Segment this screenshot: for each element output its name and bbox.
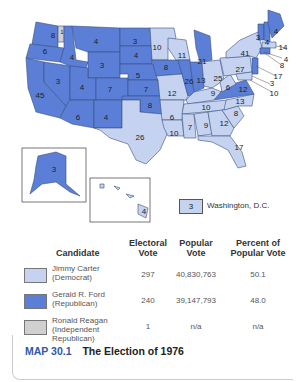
svg-text:25: 25 (214, 74, 223, 83)
svg-text:10: 10 (153, 43, 162, 52)
svg-text:7: 7 (188, 123, 193, 132)
svg-text:10: 10 (170, 129, 179, 138)
svg-text:12: 12 (220, 119, 229, 128)
svg-text:3: 3 (256, 33, 261, 42)
svg-text:9: 9 (211, 89, 216, 98)
percent-vote: 48.0 (232, 296, 284, 305)
svg-text:45: 45 (36, 91, 45, 100)
svg-text:11: 11 (178, 51, 187, 60)
svg-text:3: 3 (100, 61, 105, 70)
legend-row-carter: Jimmy Carter (Democrat) 297 40,830,763 5… (0, 264, 297, 288)
electoral-vote: 240 (130, 296, 166, 305)
header-candidate: Candidate (56, 248, 100, 258)
svg-text:8: 8 (148, 101, 153, 110)
svg-text:6: 6 (43, 47, 48, 56)
svg-text:8: 8 (280, 61, 285, 70)
svg-text:27: 27 (236, 65, 245, 74)
republican-swatch (24, 294, 47, 309)
svg-text:3: 3 (52, 165, 57, 174)
svg-text:7: 7 (144, 85, 149, 94)
us-election-map: 81 645 34 43 47 64 34 57 826 108 126 101… (0, 0, 297, 225)
svg-text:4: 4 (94, 37, 99, 46)
svg-text:10: 10 (270, 89, 279, 98)
svg-text:17: 17 (235, 143, 244, 152)
svg-text:8: 8 (51, 31, 56, 40)
dc-label: Washington, D.C. (207, 201, 269, 210)
svg-text:12: 12 (239, 85, 248, 94)
map-number: MAP 30.1 (25, 345, 72, 357)
state-ct (260, 48, 270, 54)
svg-text:4: 4 (265, 38, 270, 47)
popular-vote: 40,830,763 (166, 270, 226, 279)
electoral-vote: 297 (130, 270, 166, 279)
svg-text:13: 13 (236, 97, 245, 106)
svg-text:41: 41 (241, 49, 250, 58)
electoral-vote: 1 (130, 322, 166, 331)
svg-text:17: 17 (274, 72, 283, 81)
svg-text:9: 9 (204, 121, 209, 130)
svg-text:4: 4 (142, 207, 147, 216)
svg-text:26: 26 (136, 133, 145, 142)
svg-text:8: 8 (234, 109, 239, 118)
svg-text:10: 10 (202, 103, 211, 112)
svg-text:4: 4 (80, 83, 85, 92)
popular-vote: 39,147,793 (166, 296, 226, 305)
state-nj (252, 58, 258, 74)
svg-text:14: 14 (279, 43, 288, 52)
candidate-name: Gerald R. Ford (Republican) (52, 290, 105, 308)
legend-row-ford: Gerald R. Ford (Republican) 240 39,147,7… (0, 290, 297, 314)
svg-text:4: 4 (284, 55, 289, 64)
svg-text:7: 7 (108, 85, 113, 94)
svg-text:6: 6 (226, 83, 231, 92)
svg-text:3: 3 (270, 79, 275, 88)
map-caption: MAP 30.1 The Election of 1976 (25, 345, 184, 357)
independent-swatch (24, 320, 47, 335)
svg-text:3: 3 (133, 37, 138, 46)
democrat-swatch (24, 268, 47, 283)
svg-text:4: 4 (70, 53, 75, 62)
header-percent-popular-vote: Percent of Popular Vote (226, 238, 290, 258)
state-fl (198, 136, 246, 168)
svg-text:6: 6 (76, 113, 81, 122)
candidate-name: Jimmy Carter (Democrat) (52, 264, 100, 282)
svg-text:12: 12 (168, 89, 177, 98)
percent-vote: 50.1 (232, 270, 284, 279)
svg-text:6: 6 (170, 113, 175, 122)
map-title: The Election of 1976 (82, 345, 184, 357)
percent-vote: n/a (232, 322, 284, 331)
svg-text:3: 3 (56, 77, 61, 86)
svg-text:4: 4 (134, 51, 139, 60)
caption-border (12, 335, 293, 380)
svg-text:26: 26 (185, 77, 194, 86)
svg-text:21: 21 (198, 57, 207, 66)
svg-text:4: 4 (104, 113, 109, 122)
svg-text:8: 8 (164, 63, 169, 72)
header-popular-vote: Popular Vote (172, 238, 220, 258)
dc-vote-box: 3 (179, 199, 203, 214)
svg-text:13: 13 (197, 76, 206, 85)
svg-text:5: 5 (136, 71, 141, 80)
popular-vote: n/a (166, 322, 226, 331)
header-electoral-vote: Electoral Vote (128, 238, 168, 258)
svg-text:4: 4 (274, 27, 279, 36)
